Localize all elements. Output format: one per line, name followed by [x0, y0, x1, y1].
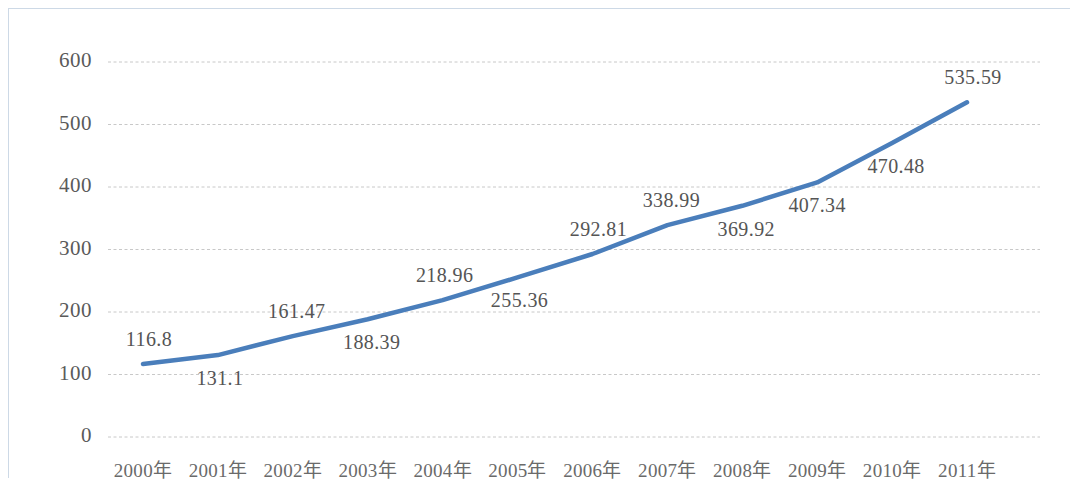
y-axis-tick-label: 100	[32, 361, 92, 386]
x-axis-tick-label: 2007年	[638, 455, 697, 482]
data-point-label: 161.47	[268, 300, 325, 323]
data-point-label: 218.96	[416, 264, 473, 287]
data-point-label: 535.59	[944, 66, 1001, 89]
data-point-label: 407.34	[788, 194, 845, 217]
data-point-label: 188.39	[343, 331, 400, 354]
data-point-label: 369.92	[718, 218, 775, 241]
data-point-label: 338.99	[643, 189, 700, 212]
y-axis-tick-label: 300	[32, 236, 92, 261]
data-point-label: 116.8	[126, 328, 172, 351]
x-axis-tick-label: 2011年	[938, 455, 996, 482]
y-axis-tick-label: 400	[32, 173, 92, 198]
data-point-label: 292.81	[570, 218, 627, 241]
series-line	[143, 102, 967, 364]
y-axis-tick-label: 0	[32, 423, 92, 448]
x-axis-tick-label: 2003年	[338, 455, 397, 482]
y-axis-tick-label: 200	[32, 298, 92, 323]
x-axis-tick-label: 2005年	[488, 455, 547, 482]
x-axis-tick-label: 2000年	[114, 455, 173, 482]
x-axis-tick-label: 2002年	[264, 455, 323, 482]
data-point-label: 255.36	[491, 289, 548, 312]
y-axis-tick-label: 600	[32, 48, 92, 73]
x-axis-tick-label: 2006年	[563, 455, 622, 482]
gridlines-group	[108, 62, 1040, 437]
x-axis-tick-label: 2010年	[863, 455, 922, 482]
x-axis-tick-label: 2004年	[413, 455, 472, 482]
y-axis-tick-label: 500	[32, 111, 92, 136]
data-point-label: 131.1	[196, 367, 243, 390]
data-point-label: 470.48	[867, 155, 924, 178]
x-axis-tick-label: 2009年	[788, 455, 847, 482]
x-axis-tick-label: 2008年	[713, 455, 772, 482]
x-axis-tick-label: 2001年	[189, 455, 248, 482]
